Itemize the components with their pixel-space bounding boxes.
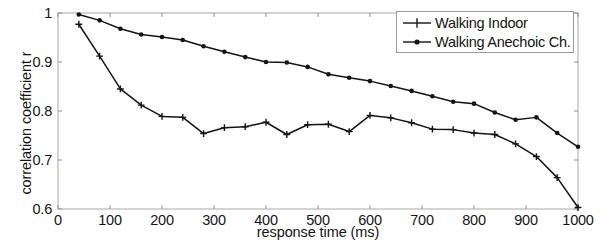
- data-point-marker: [77, 12, 82, 17]
- x-tick-label: 800: [462, 212, 486, 228]
- chart-figure: correlation coefficient r response time …: [0, 0, 607, 246]
- data-point-marker: [201, 44, 206, 49]
- x-tick-label: 1000: [562, 212, 593, 228]
- y-tick-label: 0.7: [0, 152, 52, 168]
- x-tick-label: 200: [150, 212, 174, 228]
- x-tick-label: 500: [306, 212, 330, 228]
- y-tick-label: 0.6: [0, 201, 52, 217]
- legend-item-walking-indoor: Walking Indoor: [402, 13, 528, 32]
- x-tick-label: 300: [202, 212, 226, 228]
- data-point-marker: [576, 144, 581, 149]
- y-tick-label: 1: [0, 5, 52, 21]
- legend-label: Walking Indoor: [435, 15, 528, 31]
- data-point-marker: [326, 72, 331, 77]
- legend-marker-dot-icon: [402, 35, 432, 49]
- y-tick-label: 0.9: [0, 54, 52, 70]
- data-point-marker: [493, 110, 498, 115]
- data-point-marker: [430, 94, 435, 99]
- legend-marker-plus-icon: [402, 16, 432, 30]
- data-point-marker: [264, 60, 269, 65]
- data-point-marker: [222, 49, 227, 54]
- data-point-marker: [139, 32, 144, 37]
- data-point-marker: [409, 89, 414, 94]
- x-tick-label: 400: [254, 212, 278, 228]
- legend: Walking Indoor Walking Anechoic Ch.: [396, 11, 574, 53]
- data-point-marker: [118, 26, 123, 31]
- data-point-marker: [243, 55, 248, 60]
- data-point-marker: [160, 35, 165, 40]
- x-tick-label: 600: [358, 212, 382, 228]
- data-point-marker: [181, 38, 186, 43]
- data-point-marker: [285, 60, 290, 65]
- data-point-marker: [451, 99, 456, 104]
- legend-item-walking-anechoic-ch: Walking Anechoic Ch.: [402, 32, 571, 51]
- data-point-marker: [534, 115, 539, 120]
- legend-label: Walking Anechoic Ch.: [435, 34, 571, 50]
- data-point-marker: [513, 118, 518, 123]
- x-tick-label: 700: [410, 212, 434, 228]
- data-point-marker: [555, 131, 560, 136]
- x-tick-label: 0: [54, 212, 62, 228]
- data-point-marker: [368, 79, 373, 84]
- data-point-marker: [389, 84, 394, 89]
- y-tick-label: 0.8: [0, 103, 52, 119]
- data-point-marker: [305, 65, 310, 70]
- data-point-marker: [97, 18, 102, 23]
- data-point-marker: [472, 101, 477, 106]
- x-tick-label: 900: [514, 212, 538, 228]
- x-tick-label: 100: [98, 212, 122, 228]
- data-point-marker: [347, 75, 352, 80]
